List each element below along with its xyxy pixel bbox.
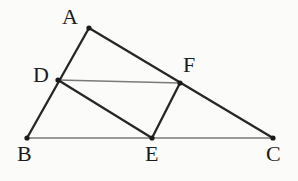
vertex-dot-e xyxy=(149,135,154,140)
segment-df xyxy=(58,80,180,83)
vertex-label-d: D xyxy=(33,64,49,86)
vertex-dot-d xyxy=(55,77,60,82)
vertex-label-e: E xyxy=(145,143,158,165)
segment-group xyxy=(27,28,273,138)
segment-de xyxy=(58,80,152,138)
vertex-label-b: B xyxy=(17,143,32,165)
vertex-label-f: F xyxy=(183,54,195,76)
vertex-dot-f xyxy=(177,80,182,85)
vertex-label-a: A xyxy=(62,6,78,28)
geometry-figure: A B C D E F xyxy=(0,0,298,181)
vertex-dot-b xyxy=(24,135,29,140)
vertex-dot-c xyxy=(270,135,275,140)
vertex-label-c: C xyxy=(266,143,281,165)
segment-ef xyxy=(152,83,180,138)
vertex-dot-a xyxy=(86,25,91,30)
